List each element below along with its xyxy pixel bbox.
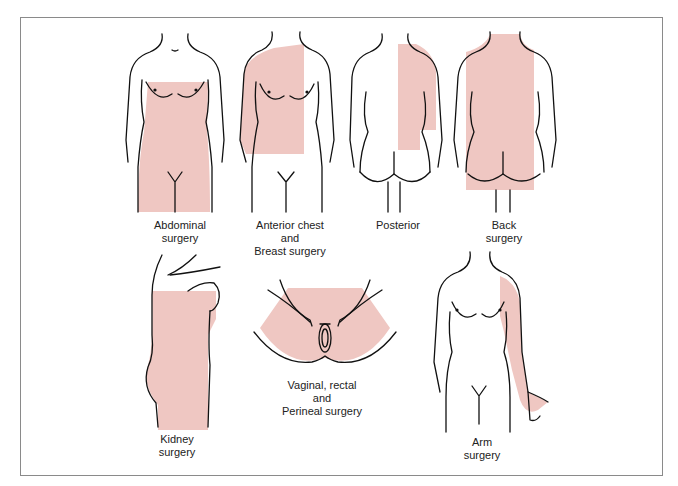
label-line: Arm <box>464 436 501 449</box>
label-arm: Arm surgery <box>464 436 501 462</box>
label-vaginal-rectal-perineal: Vaginal, rectal and Perineal surgery <box>282 379 362 418</box>
label-line: surgery <box>154 232 206 245</box>
figure-vaginal-rectal-perineal <box>250 280 400 370</box>
label-line: surgery <box>159 446 196 459</box>
front-body-chest-icon <box>232 22 342 212</box>
figure-kidney <box>140 255 240 430</box>
label-line: and <box>254 232 326 245</box>
label-line: and <box>282 392 362 405</box>
back-body-posterior-icon <box>342 22 452 212</box>
back-body-back-icon <box>448 22 568 212</box>
label-line: Kidney <box>159 433 196 446</box>
label-line: Back <box>486 219 523 232</box>
figure-arm <box>420 252 570 432</box>
label-line: Vaginal, rectal <box>282 379 362 392</box>
label-kidney: Kidney surgery <box>159 433 196 459</box>
figure-back <box>448 22 568 212</box>
figure-anterior-chest-breast <box>232 22 342 212</box>
label-anterior-chest-breast: Anterior chest and Breast surgery <box>254 219 326 258</box>
label-line: Breast surgery <box>254 245 326 258</box>
label-line: surgery <box>486 232 523 245</box>
front-body-arm-icon <box>420 252 570 432</box>
label-line: Perineal surgery <box>282 405 362 418</box>
side-body-kidney-icon <box>140 255 240 430</box>
label-back: Back surgery <box>486 219 523 245</box>
figure-abdominal <box>110 22 240 212</box>
figure-posterior <box>342 22 452 212</box>
perineum-icon <box>250 280 400 370</box>
label-line: Anterior chest <box>254 219 326 232</box>
label-posterior: Posterior <box>376 219 420 232</box>
front-body-abdominal-icon <box>110 22 240 212</box>
label-abdominal: Abdominal surgery <box>154 219 206 245</box>
label-line: Abdominal <box>154 219 206 232</box>
label-line: surgery <box>464 449 501 462</box>
label-line: Posterior <box>376 219 420 232</box>
